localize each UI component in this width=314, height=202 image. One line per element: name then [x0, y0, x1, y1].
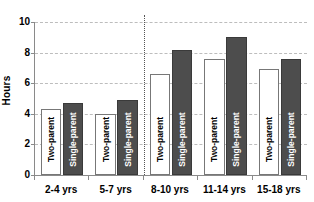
x-axis-separator [252, 175, 253, 180]
bar: Single-parent [172, 50, 193, 175]
x-axis-category-label: 11-14 yrs [197, 184, 251, 195]
x-axis-category-label: 5-7 yrs [88, 184, 142, 195]
y-tick-label: 10 [14, 17, 30, 27]
y-axis-tick-labels: 0246810 [14, 14, 32, 182]
bar-series-label: Single-parent [232, 110, 241, 170]
x-axis-group-labels: 2-4 yrs5-7 yrs8-10 yrs11-14 yrs15-18 yrs [34, 175, 306, 202]
y-tick-label: 2 [14, 139, 30, 149]
x-axis-category-label: 2-4 yrs [34, 184, 88, 195]
bar: Two-parent [259, 69, 280, 175]
bar: Single-parent [226, 37, 247, 175]
y-axis-title-text: Hours [2, 75, 13, 105]
bar: Two-parent [204, 59, 225, 175]
plot-area: Two-parentSingle-parentTwo-parentSingle-… [34, 22, 307, 176]
x-axis-separator [197, 175, 198, 180]
y-tick-label: 0 [14, 170, 30, 180]
bar-series-label: Single-parent [123, 110, 132, 170]
bar: Single-parent [281, 59, 302, 175]
y-tick-label: 6 [14, 78, 30, 88]
y-axis-title: Hours [0, 58, 14, 122]
bar-series-label: Two-parent [210, 110, 219, 170]
bar: Two-parent [41, 109, 62, 175]
bar-series-label: Two-parent [101, 114, 110, 170]
bar-series-label: Two-parent [264, 110, 273, 170]
x-axis-separator [306, 175, 307, 180]
bar: Two-parent [150, 74, 171, 175]
bars-layer: Two-parentSingle-parentTwo-parentSingle-… [35, 22, 307, 175]
bar-series-label: Single-parent [69, 110, 78, 170]
bar: Single-parent [63, 103, 84, 175]
bar-chart: Hours 0246810 Two-parentSingle-parentTwo… [0, 0, 314, 202]
y-tick-label: 4 [14, 109, 30, 119]
bar-series-label: Single-parent [286, 110, 295, 170]
bar: Single-parent [117, 100, 138, 175]
bar-series-label: Two-parent [156, 110, 165, 170]
x-axis-category-label: 15-18 yrs [252, 184, 306, 195]
x-axis-category-label: 8-10 yrs [143, 184, 197, 195]
x-axis-separator [143, 175, 144, 180]
y-tick-label: 8 [14, 48, 30, 58]
x-axis-separator [88, 175, 89, 180]
x-axis-separator [34, 175, 35, 180]
bar-series-label: Single-parent [178, 110, 187, 170]
bar-series-label: Two-parent [47, 110, 56, 170]
bar: Two-parent [95, 114, 116, 175]
